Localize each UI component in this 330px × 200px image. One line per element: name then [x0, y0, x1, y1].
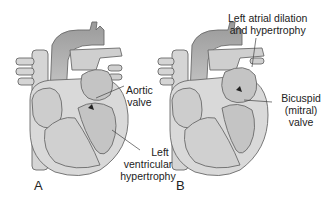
label-aortic-valve: Aortic valve	[126, 84, 153, 108]
label-line: Aortic	[126, 84, 153, 96]
label-left-atrial-dilation: Left atrial dilation and hypertrophy	[228, 12, 307, 36]
label-line: Left	[118, 146, 178, 158]
label-line: hypertrophy	[118, 170, 178, 182]
label-left-ventricular-hypertrophy: Left ventricular hypertrophy	[118, 146, 178, 182]
heart-a	[16, 22, 128, 176]
label-line: (mitral) valve	[272, 104, 330, 128]
panel-letter-a: A	[34, 178, 43, 193]
panel-letter-b: B	[176, 178, 185, 193]
label-line: Left atrial dilation	[228, 12, 307, 24]
label-line: ventricular	[118, 158, 178, 170]
label-line: valve	[126, 96, 153, 108]
label-line: Bicuspid	[272, 92, 330, 104]
label-line: and hypertrophy	[228, 24, 307, 36]
label-bicuspid-mitral-valve: Bicuspid (mitral) valve	[272, 92, 330, 128]
